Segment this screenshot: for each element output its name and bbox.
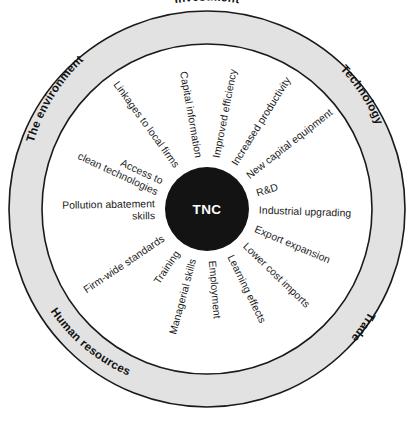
wheel-diagram: Investment Technology Trade Human resour… [0, 0, 416, 437]
tnc-core-label: TNC [193, 202, 222, 217]
tnc-impact-wheel-figure: Investment Technology Trade Human resour… [0, 0, 416, 437]
ring-label-investment: Investment [173, 0, 241, 5]
